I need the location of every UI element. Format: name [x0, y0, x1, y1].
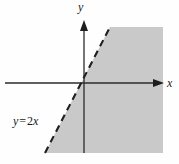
shaded-solution-region	[45, 27, 163, 153]
equation-equals-sign: =	[18, 114, 27, 128]
y-axis-arrowhead	[80, 20, 88, 31]
inequality-half-plane-graph: y x y=2x	[0, 0, 179, 164]
x-axis-label: x	[167, 77, 172, 89]
equation-variable: x	[33, 114, 38, 128]
equation-label: y=2x	[13, 115, 38, 127]
y-axis-label: y	[78, 1, 83, 13]
graph-canvas	[0, 0, 179, 164]
